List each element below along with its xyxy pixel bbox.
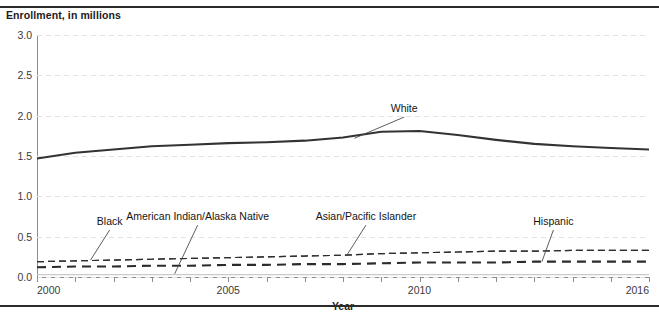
leader-line (175, 225, 198, 274)
leader-line (347, 225, 366, 255)
annotation-leader-lines (37, 35, 649, 277)
x-tick-label: 2010 (408, 284, 431, 296)
leader-line (542, 230, 553, 262)
bottom-divider (0, 305, 659, 307)
y-tick-label: 3.0 (17, 29, 32, 41)
x-tick-mark (611, 277, 612, 282)
x-tick-label: 2005 (217, 284, 240, 296)
x-tick-mark (534, 277, 535, 282)
x-tick-mark (75, 277, 76, 282)
chart-axis-title: Enrollment, in millions (6, 9, 121, 21)
leader-line (354, 117, 404, 138)
series-label: Black (97, 215, 123, 227)
y-tick-label: 2.5 (17, 69, 32, 81)
series-label: White (391, 102, 418, 114)
series-label: Asian/Pacific Islander (316, 210, 416, 222)
x-tick-mark (381, 277, 382, 282)
x-tick-mark (152, 277, 153, 282)
y-tick-label: 0.0 (17, 271, 32, 283)
x-tick-label: 2016 (626, 284, 649, 296)
chart-plot-area: 0.00.51.01.52.02.53.0 2000200520102016 W… (37, 35, 649, 277)
x-tick-label: 2000 (37, 284, 60, 296)
x-tick-mark (267, 277, 268, 282)
y-tick-label: 1.0 (17, 190, 32, 202)
series-label: American Indian/Alaska Native (126, 210, 269, 222)
x-tick-mark (305, 277, 306, 282)
leader-line (91, 230, 110, 260)
x-tick-mark (496, 277, 497, 282)
x-tick-mark (420, 277, 421, 282)
series-label: Hispanic (533, 215, 573, 227)
x-tick-mark (343, 277, 344, 282)
y-tick-label: 0.5 (17, 231, 32, 243)
y-tick-label: 2.0 (17, 110, 32, 122)
x-tick-mark (573, 277, 574, 282)
x-tick-mark (458, 277, 459, 282)
y-tick-label: 1.5 (17, 150, 32, 162)
x-tick-mark (649, 277, 650, 282)
x-tick-mark (228, 277, 229, 282)
top-divider (0, 6, 659, 8)
x-tick-mark (114, 277, 115, 282)
x-tick-mark (190, 277, 191, 282)
x-tick-mark (37, 277, 38, 282)
